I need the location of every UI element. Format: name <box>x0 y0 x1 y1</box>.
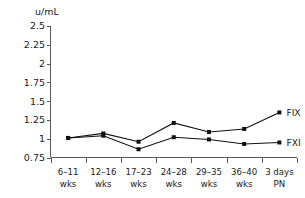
data-point-fxi-2 <box>137 147 141 151</box>
y-axis-tick-labels: 0.7511.251.51.7522.252.5 <box>24 20 45 163</box>
x-tick-label: 12–16 <box>90 167 116 177</box>
y-axis-title-group: u/mL <box>35 6 59 17</box>
data-point-fix-6 <box>277 110 281 114</box>
y-tick-label: 2 <box>39 58 45 69</box>
x-tick-label: 29–35 <box>196 167 222 177</box>
series-markers-group <box>66 110 281 151</box>
y-axis-tick-marks <box>47 27 51 159</box>
data-point-fxi-6 <box>277 140 281 144</box>
x-tick-label: 24–28 <box>161 167 187 177</box>
line-chart: u/mL 0.7511.251.51.7522.252.5 FIXFXI 6–1… <box>0 0 305 198</box>
x-tick-label: PN <box>274 179 286 189</box>
chart-container: u/mL 0.7511.251.51.7522.252.5 FIXFXI 6–1… <box>0 0 305 198</box>
x-tick-label: wks <box>166 179 183 189</box>
x-tick-label: 36–40 <box>231 167 257 177</box>
series-labels-group: FIXFXI <box>286 107 300 148</box>
data-point-fxi-0 <box>66 136 70 140</box>
y-axis-title: u/mL <box>35 6 59 17</box>
data-point-fxi-1 <box>101 134 105 138</box>
y-tick-label: 1 <box>39 133 45 144</box>
data-point-fxi-4 <box>207 137 211 141</box>
x-tick-label: 3 days <box>265 167 294 177</box>
y-tick-label: 0.75 <box>24 152 45 163</box>
x-tick-label: wks <box>60 179 77 189</box>
series-lines-group <box>68 112 279 149</box>
data-point-fix-3 <box>172 121 176 125</box>
y-tick-label: 1.25 <box>24 114 45 125</box>
data-point-fix-4 <box>207 130 211 134</box>
x-tick-label: wks <box>130 179 147 189</box>
x-axis-tick-marks <box>52 158 298 163</box>
data-point-fxi-5 <box>242 142 246 146</box>
y-tick-label: 1.75 <box>24 77 45 88</box>
x-axis-tick-labels: 6–11wks12–16wks17–23wks24–28wks29–35wks3… <box>58 167 294 189</box>
data-point-fxi-3 <box>172 135 176 139</box>
x-tick-label: 6–11 <box>58 167 79 177</box>
data-point-fix-2 <box>137 140 141 144</box>
y-tick-label: 1.5 <box>30 96 45 107</box>
x-tick-label: wks <box>236 179 253 189</box>
x-tick-label: 17–23 <box>125 167 151 177</box>
x-tick-label: wks <box>201 179 218 189</box>
series-label-fxi: FXI <box>286 137 300 148</box>
x-tick-label: wks <box>95 179 112 189</box>
series-label-fix: FIX <box>286 107 300 118</box>
y-tick-label: 2.25 <box>24 39 45 50</box>
y-tick-label: 2.5 <box>30 20 45 31</box>
data-point-fix-5 <box>242 127 246 131</box>
